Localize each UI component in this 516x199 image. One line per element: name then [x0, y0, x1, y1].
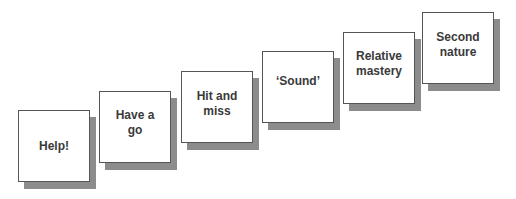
- step-box: Hit and miss: [181, 71, 253, 143]
- step-label: Relative mastery: [347, 49, 411, 79]
- step-help: Help!: [18, 110, 90, 182]
- step-label: Help!: [35, 139, 73, 154]
- step-box: Help!: [18, 110, 90, 182]
- staircase-diagram: Help! Have a go Hit and miss ‘Sound’ Rel…: [0, 0, 516, 199]
- step-label: Have a go: [106, 108, 164, 138]
- step-box: ‘Sound’: [262, 51, 334, 123]
- step-label: ‘Sound’: [272, 74, 324, 89]
- step-have-a-go: Have a go: [99, 91, 171, 163]
- step-hit-and-miss: Hit and miss: [181, 71, 253, 143]
- step-sound: ‘Sound’: [262, 51, 334, 123]
- step-label: Second nature: [426, 30, 490, 60]
- step-second-nature: Second nature: [422, 12, 494, 84]
- step-box: Have a go: [99, 91, 171, 163]
- step-box: Relative mastery: [343, 32, 415, 104]
- step-box: Second nature: [422, 12, 494, 84]
- step-label: Hit and miss: [188, 89, 246, 119]
- step-relative-mastery: Relative mastery: [343, 32, 415, 104]
